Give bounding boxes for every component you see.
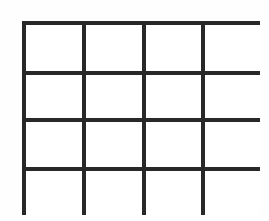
grid-cell-r3c1[interactable] [26,122,82,167]
grid-cell-r1c3[interactable] [146,25,201,71]
grid-cell-r3c2[interactable] [86,122,142,167]
grid-cell-r3c3[interactable] [146,122,201,167]
grid-cell-r2c1[interactable] [26,75,82,118]
grid-cell-r2c3[interactable] [146,75,201,118]
grid-cell-r1c4[interactable] [205,25,260,71]
grid-cell-r1c1[interactable] [26,25,82,71]
scan-canvas [0,0,269,221]
grid-cell-r4c3[interactable] [146,171,201,215]
grid-figure [22,21,260,215]
grid-cell-r4c2[interactable] [86,171,142,215]
grid-cell-r1c2[interactable] [86,25,142,71]
grid-cell-r2c4[interactable] [205,75,260,118]
grid-cell-r3c4[interactable] [205,122,260,167]
grid-cell-r2c2[interactable] [86,75,142,118]
grid-cell-r4c4[interactable] [205,171,260,215]
grid-cell-r4c1[interactable] [26,171,82,215]
